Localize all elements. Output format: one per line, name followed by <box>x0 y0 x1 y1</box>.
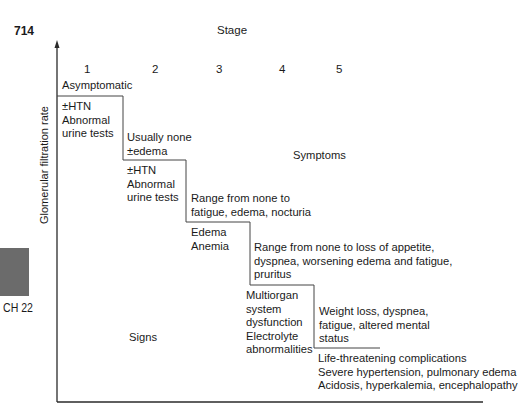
text-line: Electrolyte <box>246 330 313 344</box>
text-line: Multiorgan <box>246 289 313 303</box>
text-line: Range from none to <box>191 192 311 206</box>
stage-number-4: 4 <box>279 63 285 75</box>
text-line: Acidosis, hyperkalemia, encephalopathy <box>318 379 518 393</box>
stage-5-symptoms: Weight loss, dyspnea, fatigue, altered m… <box>319 305 430 346</box>
stage-5-signs: Life-threatening complications Severe hy… <box>318 352 518 393</box>
stage-2-signs: ±HTN Abnormal urine tests <box>127 164 179 205</box>
stage-3-symptoms: Range from none to fatigue, edema, noctu… <box>191 192 311 219</box>
text-line: ±HTN <box>127 164 179 178</box>
text-line: Range from none to loss of appetite, <box>254 241 452 255</box>
text-line: Edema <box>191 226 229 240</box>
stage-1-symptoms: Asymptomatic <box>62 79 132 93</box>
text-line: Abnormal <box>127 178 179 192</box>
text-line: system <box>246 303 313 317</box>
y-axis-label: Glomerular filtration rate <box>38 106 50 224</box>
text-line: Asymptomatic <box>62 79 132 93</box>
text-line: Severe hypertension, pulmonary edema <box>318 366 518 380</box>
text-line: dyspnea, worsening edema and fatigue, <box>254 255 452 269</box>
text-line: fatigue, altered mental <box>319 319 430 333</box>
stage-title: Stage <box>217 24 247 36</box>
y-axis-arrow-icon <box>55 40 60 48</box>
text-line: fatigue, edema, nocturia <box>191 206 311 220</box>
stage-4-symptoms: Range from none to loss of appetite, dys… <box>254 241 452 282</box>
text-line: abnormalities <box>246 343 313 357</box>
stage-2-symptoms: Usually none ±edema <box>127 131 192 158</box>
signs-region-label: Signs <box>129 331 157 345</box>
text-line: Weight loss, dyspnea, <box>319 305 430 319</box>
stage-4-signs: Multiorgan system dysfunction Electrolyt… <box>246 289 313 357</box>
stage-number-3: 3 <box>216 63 222 75</box>
text-line: status <box>319 332 430 346</box>
symptoms-region-label: Symptoms <box>293 149 346 163</box>
text-line: Abnormal <box>62 114 114 128</box>
stage-3-signs: Edema Anemia <box>191 226 229 253</box>
text-line: dysfunction <box>246 316 313 330</box>
stage-number-1: 1 <box>84 63 90 75</box>
text-line: pruritus <box>254 268 452 282</box>
stage-number-2: 2 <box>152 63 158 75</box>
text-line: urine tests <box>127 191 179 205</box>
text-line: Life-threatening complications <box>318 352 518 366</box>
text-line: urine tests <box>62 127 114 141</box>
stage-number-5: 5 <box>336 63 342 75</box>
text-line: Usually none <box>127 131 192 145</box>
text-line: ±HTN <box>62 100 114 114</box>
text-line: ±edema <box>127 145 192 159</box>
text-line: Anemia <box>191 240 229 254</box>
stage-1-signs: ±HTN Abnormal urine tests <box>62 100 114 141</box>
